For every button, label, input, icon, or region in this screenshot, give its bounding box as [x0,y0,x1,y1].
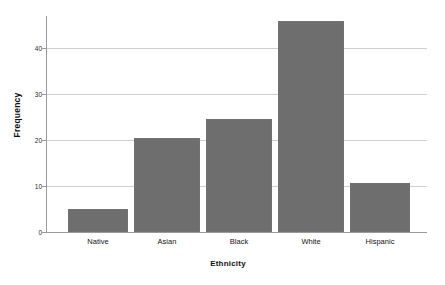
y-tick-label-0: 0 [2,229,42,236]
x-axis-title: Ethnicity [46,259,410,268]
x-tick-label-hispanic: Hispanic [366,237,395,246]
bar-black[interactable] [206,119,272,232]
bar-group [46,16,410,232]
bar-chart-figure: Frequency 0 10 20 30 40 N [0,0,445,285]
x-tick-label-white: White [301,237,320,246]
x-tick-label-asian: Asian [158,237,177,246]
bar-white[interactable] [278,21,344,232]
x-tick-label-black: Black [230,237,248,246]
bar-hispanic[interactable] [350,183,410,232]
y-tick-label-10: 10 [2,183,42,190]
x-tick-label-native: Native [87,237,108,246]
y-tick-label-30: 30 [2,91,42,98]
bar-asian[interactable] [134,138,200,232]
y-tick-label-20: 20 [2,137,42,144]
bar-native[interactable] [68,209,128,233]
chart-plot-region: Frequency 0 10 20 30 40 N [0,0,445,285]
y-axis-tick-labels: 0 10 20 30 40 [0,0,42,285]
x-axis-line [46,232,427,233]
y-tick-label-40: 40 [2,45,42,52]
